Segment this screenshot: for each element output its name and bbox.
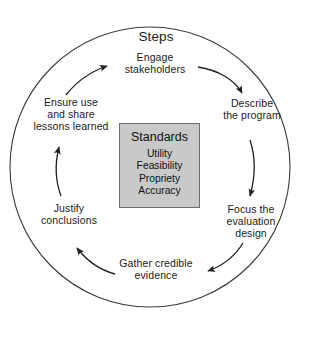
evaluation-framework-diagram: Steps Engage stakeholders Describe the p…: [0, 0, 312, 338]
standard-item-accuracy: Accuracy: [120, 185, 199, 198]
arrow-ensure-to-engage: [66, 66, 107, 95]
step-label-gather-credible-evidence: Gather credible evidence: [102, 258, 210, 282]
step-label-focus-the-evaluation-design: Focus the evaluation design: [209, 204, 293, 239]
step-label-engage-stakeholders: Engage stakeholders: [103, 52, 207, 76]
step-label-describe-the-program: Describe the program: [210, 98, 294, 122]
standards-title: Standards: [120, 131, 199, 145]
step-label-justify-conclusions: Justify conclusions: [26, 203, 112, 227]
standard-item-propriety: Propriety: [120, 173, 199, 186]
arrow-justify-to-ensure: [56, 147, 61, 196]
arrow-describe-to-focus: [250, 140, 254, 196]
standards-box: Standards Utility Feasibility Propriety …: [119, 123, 200, 208]
standard-item-feasibility: Feasibility: [120, 160, 199, 173]
standard-item-utility: Utility: [120, 148, 199, 161]
arrow-focus-to-gather: [208, 243, 243, 271]
diagram-title: Steps: [0, 29, 312, 44]
standards-list: Utility Feasibility Propriety Accuracy: [120, 148, 199, 198]
step-label-ensure-use-and-share-lessons-learned: Ensure use and share lessons learned: [20, 97, 122, 132]
